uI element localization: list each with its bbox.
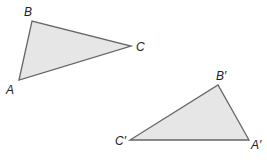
triangle-abc — [19, 21, 131, 80]
label-b: B — [24, 5, 32, 19]
triangles-diagram: A B C A′ B′ C′ — [0, 0, 267, 160]
label-a-prime: A′ — [250, 138, 262, 152]
diagram-canvas: A B C A′ B′ C′ — [0, 0, 267, 160]
label-a: A — [5, 83, 14, 97]
label-c: C — [136, 40, 145, 54]
label-c-prime: C′ — [115, 134, 127, 148]
label-b-prime: B′ — [216, 69, 227, 83]
triangle-a-prime-b-prime-c-prime — [130, 85, 249, 140]
